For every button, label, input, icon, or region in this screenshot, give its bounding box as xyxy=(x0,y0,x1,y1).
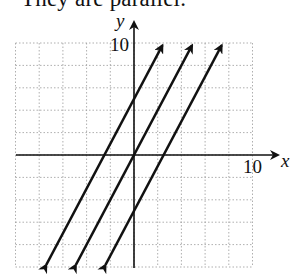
y-axis-label: y xyxy=(114,10,125,31)
coordinate-plane: x y 10 10 xyxy=(0,0,301,276)
y-tick-label-10: 10 xyxy=(110,34,129,55)
axes xyxy=(16,22,278,268)
x-tick-label-10: 10 xyxy=(243,156,262,177)
x-axis-label: x xyxy=(280,150,290,171)
